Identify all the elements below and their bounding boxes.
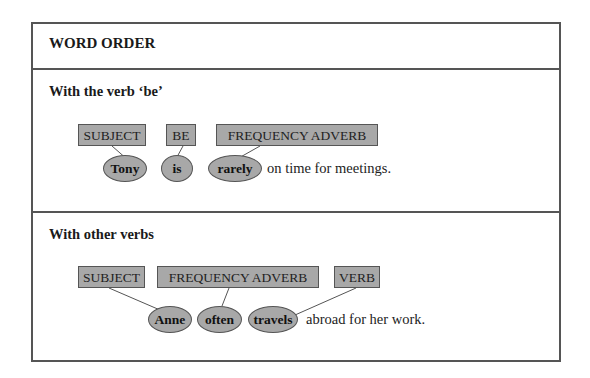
divider-title: [31, 68, 561, 70]
panel-title: WORD ORDER: [49, 35, 155, 52]
word-oval-often: often: [197, 306, 242, 333]
label-verb: VERB: [334, 266, 380, 288]
word-oval-is: is: [161, 155, 193, 182]
label-subject-2: SUBJECT: [78, 266, 145, 288]
section-heading-other-verbs: With other verbs: [49, 226, 154, 243]
section-heading-be: With the verb ‘be’: [49, 83, 163, 100]
label-frequency-adverb: FREQUENCY ADVERB: [216, 124, 378, 146]
sentence-rest-1: on time for meetings.: [267, 155, 391, 182]
word-oval-travels: travels: [248, 306, 298, 333]
divider-sections: [31, 211, 561, 213]
sentence-rest-2: abroad for her work.: [306, 306, 425, 333]
label-frequency-adverb-2: FREQUENCY ADVERB: [157, 266, 319, 288]
word-oval-rarely: rarely: [208, 155, 262, 182]
word-oval-anne: Anne: [148, 306, 192, 333]
label-subject: SUBJECT: [78, 124, 146, 146]
word-oval-tony: Tony: [103, 155, 147, 182]
label-be: BE: [166, 124, 196, 146]
word-order-panel: [31, 22, 561, 362]
